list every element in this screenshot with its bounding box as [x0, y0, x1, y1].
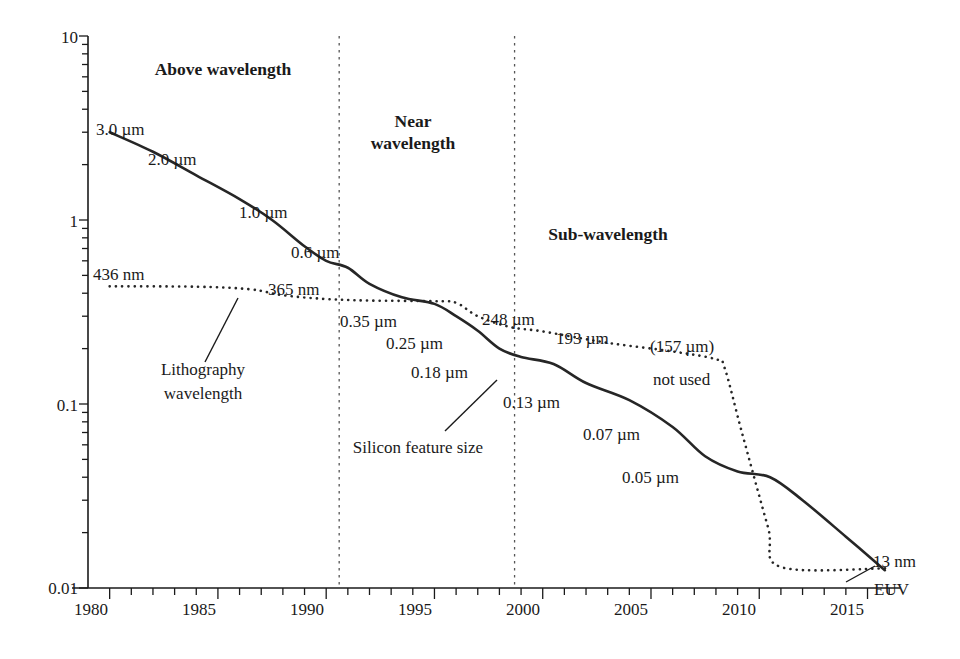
- x-tick-label-2010: 2010: [711, 600, 767, 619]
- x-axis-ticks: [110, 588, 890, 599]
- data-label-0.25um: 0.25 µm: [386, 334, 443, 353]
- x-tick-label-2005: 2005: [603, 600, 659, 619]
- region-label-near-wavelength-line1: Near: [343, 112, 483, 132]
- data-label-248um: 248 µm: [482, 310, 535, 329]
- data-label-436nm: 436 nm: [93, 265, 144, 284]
- y-tick-label-1: 1: [46, 212, 78, 231]
- leader-line-silicon: [445, 380, 497, 431]
- data-label-365nm: 365 nm: [268, 280, 319, 299]
- annotation-leader-lines: [205, 298, 875, 582]
- data-label-0.35um: 0.35 µm: [340, 312, 397, 331]
- x-tick-label-1985: 1985: [171, 600, 227, 619]
- region-label-above-wavelength: Above wavelength: [118, 60, 328, 80]
- annotation-lithography-wavelength-line2: wavelength: [118, 384, 288, 403]
- chart-canvas: [0, 0, 960, 659]
- x-tick-label-1995: 1995: [387, 600, 443, 619]
- data-label-0.18um: 0.18 µm: [411, 363, 468, 382]
- data-label-2.0um: 2.0 µm: [148, 150, 197, 169]
- y-tick-label-10: 10: [46, 28, 78, 47]
- silicon-feature-size-curve: [110, 132, 885, 570]
- annotation-lithography-wavelength-line1: Lithography: [118, 360, 288, 379]
- data-label-0.13um: 0.13 µm: [503, 393, 560, 412]
- lithography-feature-size-chart: 10 1 0.1 0.01 1980 1985 1990 1995 2000 2…: [0, 0, 960, 659]
- leader-line-lithography: [205, 298, 238, 362]
- data-label-0.05um: 0.05 µm: [622, 468, 679, 487]
- data-label-1.0um: 1.0 µm: [239, 203, 288, 222]
- y-tick-label-0.1: 0.1: [32, 396, 78, 415]
- data-label-157um: (157 µm): [650, 337, 714, 356]
- data-label-not-used: not used: [653, 370, 710, 389]
- y-axis-ticks: [79, 36, 88, 588]
- data-label-3.0um: 3.0 µm: [96, 120, 145, 139]
- x-tick-label-1980: 1980: [63, 600, 119, 619]
- x-tick-label-2015: 2015: [819, 600, 875, 619]
- data-label-0.6um: 0.6 µm: [291, 243, 340, 262]
- data-label-euv: EUV: [874, 580, 909, 599]
- annotation-silicon-feature-size: Silicon feature size: [318, 438, 518, 457]
- region-label-sub-wavelength: Sub-wavelength: [508, 225, 708, 245]
- region-label-near-wavelength-line2: wavelength: [343, 134, 483, 154]
- data-label-13nm: 13 nm: [873, 552, 916, 571]
- data-label-193um: 193 µm: [556, 329, 609, 348]
- y-tick-label-0.01: 0.01: [20, 579, 78, 598]
- x-tick-label-2000: 2000: [495, 600, 551, 619]
- data-label-0.07um: 0.07 µm: [583, 425, 640, 444]
- x-tick-label-1990: 1990: [279, 600, 335, 619]
